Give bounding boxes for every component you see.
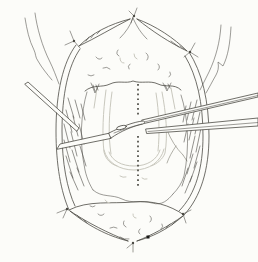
small-vein [167, 130, 187, 163]
lower-skin-flap [70, 200, 183, 241]
neck-contour-right [200, 25, 231, 93]
probe-instrument [25, 82, 79, 131]
upper-skin-flap [79, 18, 187, 93]
horizontal-right-shaft [146, 118, 258, 134]
surgical-illustration-figure [0, 0, 258, 262]
surgical-illustration-drawing [0, 0, 258, 262]
reference-square-marker [147, 236, 150, 239]
hemostat-jaw [109, 121, 145, 138]
neck-contour-left [25, 13, 59, 84]
